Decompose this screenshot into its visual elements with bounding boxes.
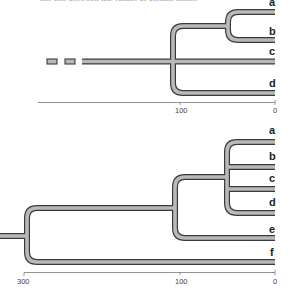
leaf-label-a: a: [269, 0, 276, 8]
leaf-label-c: c: [269, 45, 275, 57]
axis-bottom: 300 100 0: [17, 270, 277, 286]
dendrogram-top: a b c d 100 0: [38, 0, 277, 115]
leaf-label-b: b: [269, 25, 276, 37]
leaf-label-f: f: [270, 246, 274, 258]
tick-label-0: 0: [273, 277, 277, 286]
tick-label-100: 100: [175, 277, 188, 286]
tick-label-0: 0: [273, 106, 277, 115]
dendrogram-figure: a b c d 100 0: [0, 0, 290, 294]
tick-label-300: 300: [17, 277, 30, 286]
leaf-label-d: d: [269, 196, 276, 208]
root-dash-2: [65, 59, 75, 64]
dendrogram-bottom: a b c d e f 300 100 0: [0, 124, 277, 286]
leaf-label-a: a: [269, 124, 276, 136]
root-dash-1: [47, 59, 57, 64]
axis-top: 100 0: [38, 100, 277, 115]
leaf-label-c: c: [269, 172, 275, 184]
leaf-label-d: d: [269, 77, 276, 89]
leaf-label-b: b: [269, 150, 276, 162]
leaf-label-e: e: [269, 223, 275, 235]
tick-label-100: 100: [175, 106, 188, 115]
